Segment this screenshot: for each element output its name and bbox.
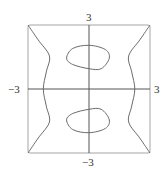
x-max-tick-label: 3	[154, 84, 160, 95]
lower-oval-curve	[67, 108, 110, 132]
y-max-tick-label: 3	[86, 12, 92, 23]
contour-plot	[0, 0, 166, 170]
x-min-tick-label: −3	[8, 84, 20, 95]
y-min-tick-label: −3	[82, 157, 94, 168]
upper-oval-curve	[67, 45, 110, 69]
